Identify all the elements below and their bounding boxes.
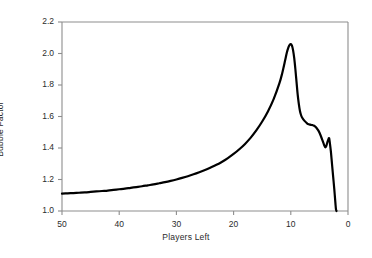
y-axis-ticks (58, 22, 62, 211)
axis-frame (62, 22, 348, 211)
x-tick-label: 40 (107, 219, 131, 229)
y-tick-label: 1.0 (28, 205, 54, 215)
y-tick-label: 2.0 (28, 48, 54, 58)
y-tick-label: 1.6 (28, 111, 54, 121)
y-tick-label: 2.2 (28, 16, 54, 26)
chart-figure: Bubble Factor Players Left 1.01.21.41.61… (0, 0, 372, 258)
data-series-line (62, 44, 337, 211)
x-axis-label: Players Left (0, 232, 372, 242)
x-tick-label: 20 (222, 219, 246, 229)
x-tick-label: 0 (336, 219, 360, 229)
x-axis-ticks (62, 211, 348, 215)
x-tick-label: 30 (164, 219, 188, 229)
y-tick-label: 1.8 (28, 79, 54, 89)
y-tick-label: 1.4 (28, 142, 54, 152)
x-tick-label: 50 (50, 219, 74, 229)
x-tick-label: 10 (279, 219, 303, 229)
y-tick-label: 1.2 (28, 174, 54, 184)
